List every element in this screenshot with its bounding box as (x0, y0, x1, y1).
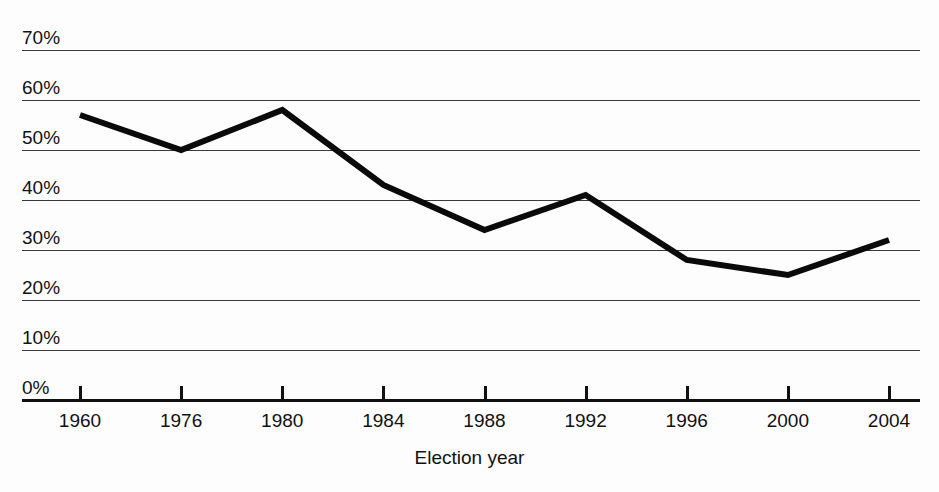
x-tick-label-1984: 1984 (362, 411, 404, 430)
x-tick-mark-1980 (281, 386, 284, 400)
x-tick-mark-1992 (585, 386, 588, 400)
x-tick-label-1988: 1988 (463, 411, 505, 430)
x-tick-mark-1996 (686, 386, 689, 400)
x-tick-mark-2004 (888, 386, 891, 400)
x-tick-label-1996: 1996 (666, 411, 708, 430)
x-tick-label-1980: 1980 (261, 411, 303, 430)
x-tick-label-2000: 2000 (767, 411, 809, 430)
x-axis-title: Election year (0, 448, 939, 467)
y-tick-label-10%: 10% (22, 328, 60, 347)
gridline-40% (22, 200, 920, 201)
gridline-20% (22, 300, 920, 301)
x-axis-baseline (22, 399, 920, 402)
x-tick-label-1992: 1992 (564, 411, 606, 430)
x-tick-mark-1976 (180, 386, 183, 400)
x-tick-label-1976: 1976 (160, 411, 202, 430)
x-tick-mark-1960 (79, 386, 82, 400)
y-tick-label-20%: 20% (22, 278, 60, 297)
x-tick-mark-1988 (484, 386, 487, 400)
plot-area: 0%10%20%30%40%50%60%70% 1960197619801984… (0, 0, 939, 492)
line-chart: 0%10%20%30%40%50%60%70% 1960197619801984… (0, 0, 939, 492)
x-tick-mark-2000 (787, 386, 790, 400)
y-tick-label-0%: 0% (22, 378, 49, 397)
y-tick-label-40%: 40% (22, 178, 60, 197)
gridline-60% (22, 100, 920, 101)
gridline-70% (22, 50, 920, 51)
gridline-50% (22, 150, 920, 151)
gridline-30% (22, 250, 920, 251)
x-tick-label-2004: 2004 (868, 411, 910, 430)
x-tick-label-1960: 1960 (59, 411, 101, 430)
y-tick-label-30%: 30% (22, 228, 60, 247)
y-tick-label-50%: 50% (22, 128, 60, 147)
y-tick-label-70%: 70% (22, 28, 60, 47)
x-tick-mark-1984 (382, 386, 385, 400)
y-tick-label-60%: 60% (22, 78, 60, 97)
gridline-10% (22, 350, 920, 351)
